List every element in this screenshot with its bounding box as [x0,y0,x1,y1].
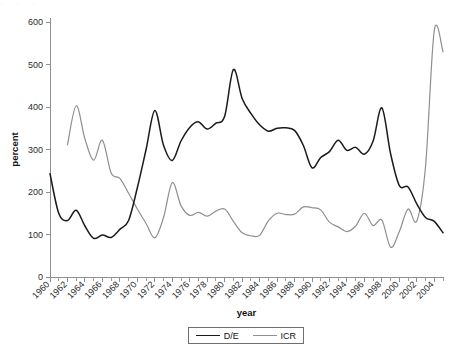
series-line-icr [67,25,443,247]
legend-entry-icr: ICR [253,331,297,341]
x-tick-label: 1970 [118,279,139,300]
y-tick-label: 600 [28,17,43,27]
chart-figure: · · · 0100200300400500600196019621964196… [0,0,453,356]
x-tick-label: 2004 [414,279,435,300]
x-tick-label: 1974 [152,279,173,300]
x-tick-label: 1990 [292,279,313,300]
x-tick-label: 1978 [187,279,208,300]
x-tick-label: 1962 [48,279,69,300]
y-tick-label: 400 [28,102,43,112]
legend-entry-de: D/E [196,331,239,341]
series-line-d-e [50,69,443,238]
top-artifact-text: · · · [0,0,453,8]
x-tick-label: 1984 [240,279,261,300]
legend-swatch-de [196,335,220,336]
x-tick-label: 1986 [257,279,278,300]
y-tick-label: 500 [28,60,43,70]
x-tick-label: 1998 [362,279,383,300]
x-tick-label: 1988 [275,279,296,300]
x-tick-label: 2000 [380,279,401,300]
legend-label-icr: ICR [281,331,297,341]
x-tick-label: 1966 [83,279,104,300]
plot-area: 0100200300400500600196019621964196619681… [0,8,453,318]
legend-swatch-icr [253,335,277,336]
x-tick-label: 1992 [310,279,331,300]
x-tick-label: 1972 [135,279,156,300]
y-tick-label: 100 [28,230,43,240]
x-tick-label: 1980 [205,279,226,300]
x-tick-label: 1996 [345,279,366,300]
y-axis-title: percent [9,132,20,167]
y-tick-label: 200 [28,187,43,197]
x-tick-label: 1976 [170,279,191,300]
x-tick-label: 2002 [397,279,418,300]
x-tick-label: 1964 [65,279,86,300]
line-chart: 0100200300400500600196019621964196619681… [0,8,453,318]
x-tick-label: 1994 [327,279,348,300]
legend-label-de: D/E [224,331,239,341]
chart-legend: D/E ICR [188,327,304,344]
x-tick-label: 1968 [100,279,121,300]
y-tick-label: 300 [28,145,43,155]
x-tick-label: 1982 [222,279,243,300]
x-tick-label: 1960 [30,279,51,300]
x-axis-title: year [237,307,257,318]
